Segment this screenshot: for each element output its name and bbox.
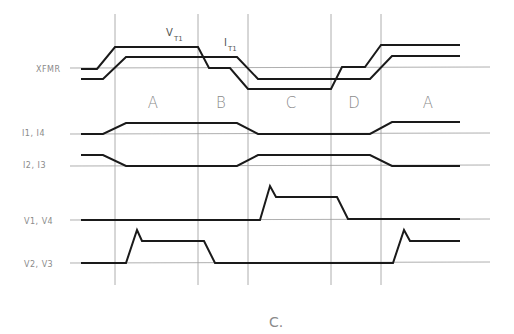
region-label-c: C	[286, 94, 296, 112]
signal-label-vt1-sub: T1	[173, 35, 183, 43]
trace-v2-v3	[81, 230, 460, 263]
row-label-i1-i4: I1, I4	[22, 129, 45, 138]
vertical-gridlines	[115, 14, 381, 285]
signal-label-it1-sub: T1	[227, 45, 237, 53]
figure-caption: C.	[269, 314, 283, 330]
row-label-v2-v3: V2, V3	[24, 260, 53, 269]
timing-diagram: XFMR I1, I4 I2, I3 V1, V4 V2, V3 V T1 I …	[0, 0, 514, 334]
signal-label-vt1: V	[166, 27, 173, 38]
trace-i1-i4	[81, 122, 460, 134]
signal-label-it1: I	[224, 37, 227, 48]
row-label-i2-i3: I2, I3	[23, 161, 46, 170]
row-label-v1-v4: V1, V4	[24, 217, 53, 226]
trace-v1-v4	[81, 186, 460, 220]
region-label-a1: A	[148, 94, 158, 112]
region-label-b: B	[216, 94, 226, 112]
row-label-xfmr: XFMR	[36, 65, 61, 74]
region-label-a2: A	[423, 94, 433, 112]
region-label-d: D	[348, 94, 360, 112]
baseline-xfmr	[70, 67, 490, 68]
trace-i2-i3	[81, 155, 460, 166]
